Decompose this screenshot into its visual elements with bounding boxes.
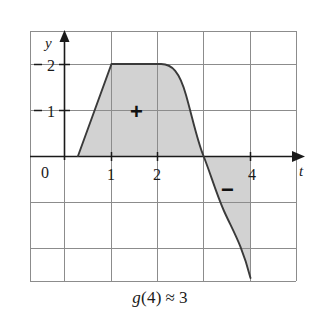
t-axis-arrowhead bbox=[292, 151, 305, 162]
caption-value: 3 bbox=[179, 288, 188, 307]
caption-argument: (4) bbox=[141, 288, 162, 307]
x-tick-label-1: 1 bbox=[107, 166, 115, 183]
caption-function-name: g bbox=[132, 288, 141, 307]
x-tick-label-4: 4 bbox=[248, 166, 256, 183]
y-tick-label-2: 2 bbox=[47, 57, 55, 74]
integral-area-plot: y t 2 1 0 1 2 4 + − bbox=[0, 0, 320, 319]
caption-relation: ≈ bbox=[166, 288, 176, 307]
t-axis-label: t bbox=[299, 163, 304, 179]
figure-container: y t 2 1 0 1 2 4 + − g(4) ≈ 3 bbox=[0, 0, 320, 319]
y-axis-label: y bbox=[43, 35, 52, 51]
positive-sign-annotation: + bbox=[130, 99, 143, 124]
x-tick-label-2: 2 bbox=[153, 166, 161, 183]
negative-sign-annotation: − bbox=[221, 177, 234, 202]
y-tick-label-1: 1 bbox=[47, 103, 55, 120]
figure-caption: g(4) ≈ 3 bbox=[0, 288, 320, 308]
origin-label: 0 bbox=[41, 164, 49, 181]
